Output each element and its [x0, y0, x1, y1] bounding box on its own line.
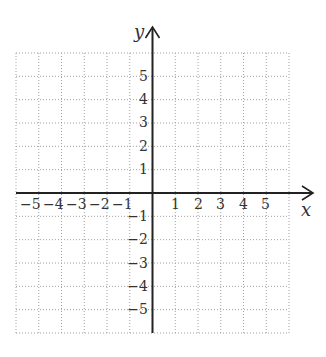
x-tick-label: −3 — [66, 196, 87, 212]
x-tick-label: 4 — [239, 196, 248, 212]
x-tick-label: 5 — [261, 196, 270, 212]
y-tick-label: −3 — [127, 255, 148, 271]
x-tick-label: 1 — [171, 196, 180, 212]
y-tick-label: −5 — [127, 301, 148, 317]
coordinate-plane: y x −5 −4 −3 −2 −1 1 2 3 4 5 5 4 3 2 1 −… — [0, 0, 326, 357]
x-tick-labels-negative: −5 −4 −3 −2 −1 — [20, 196, 133, 212]
y-tick-labels-positive: 5 4 3 2 1 — [139, 68, 148, 177]
x-axis-label: x — [301, 199, 311, 220]
y-tick-label: −2 — [127, 231, 148, 247]
x-tick-label: −5 — [20, 196, 41, 212]
y-tick-label: −1 — [127, 208, 148, 224]
y-tick-label: 3 — [139, 114, 148, 130]
x-tick-label: 2 — [194, 196, 203, 212]
y-tick-label: 5 — [139, 68, 148, 84]
y-tick-label: 2 — [139, 138, 148, 154]
y-axis-label: y — [133, 21, 145, 42]
y-tick-label: −4 — [127, 278, 148, 294]
y-tick-labels-negative: −1 −2 −3 −4 −5 — [127, 208, 148, 317]
x-tick-label: 3 — [216, 196, 225, 212]
x-tick-label: −4 — [43, 196, 64, 212]
x-tick-label: −2 — [89, 196, 110, 212]
y-tick-label: 4 — [139, 91, 148, 107]
x-tick-labels-positive: 1 2 3 4 5 — [171, 196, 270, 212]
y-tick-label: 1 — [139, 161, 148, 177]
